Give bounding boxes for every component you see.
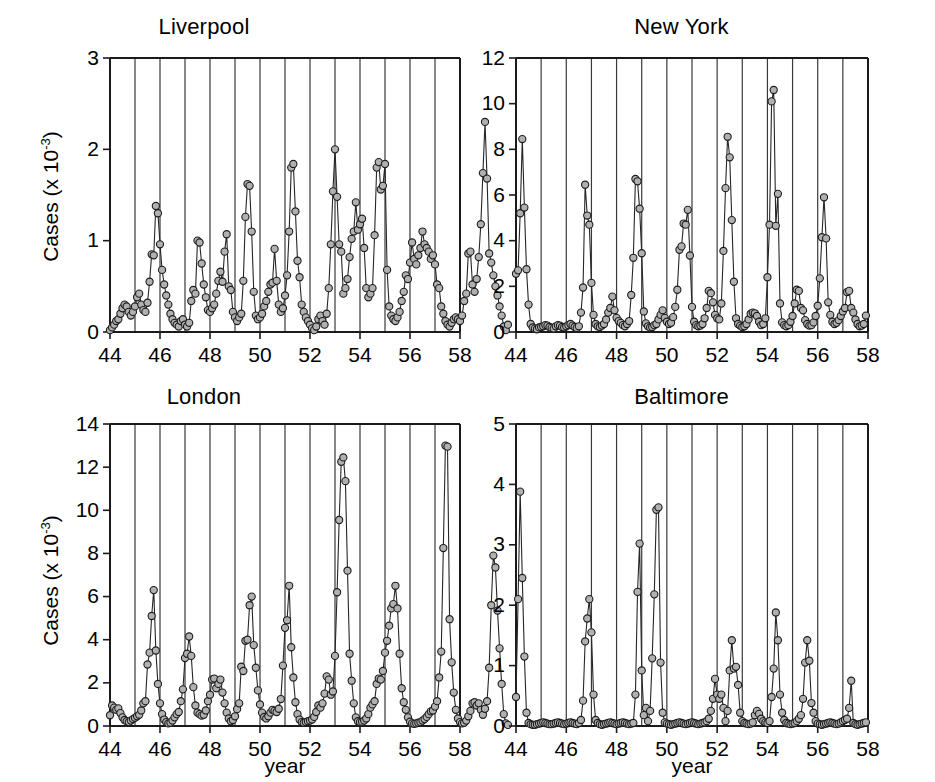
- data-point: [275, 705, 282, 712]
- data-point: [277, 695, 284, 702]
- data-point: [728, 217, 735, 224]
- data-point: [429, 252, 436, 259]
- data-point: [797, 712, 804, 719]
- y-tick-label: 2: [493, 274, 505, 297]
- y-tick-label: 6: [493, 183, 505, 206]
- data-point: [217, 676, 224, 683]
- data-point: [640, 308, 647, 315]
- plot-london: 024681012144446485052545658: [0, 372, 468, 782]
- data-point: [458, 312, 465, 319]
- data-point: [286, 582, 293, 589]
- data-point: [644, 718, 651, 725]
- data-point: [716, 316, 723, 323]
- data-point: [298, 301, 305, 308]
- data-point: [106, 712, 113, 719]
- data-point: [440, 544, 447, 551]
- data-point: [814, 302, 821, 309]
- data-point: [383, 637, 390, 644]
- data-point: [816, 275, 823, 282]
- data-point: [586, 596, 593, 603]
- data-point: [240, 667, 247, 674]
- data-point: [396, 650, 403, 657]
- data-point: [290, 160, 297, 167]
- data-point: [156, 241, 163, 248]
- data-point: [768, 693, 775, 700]
- data-point: [331, 146, 338, 153]
- plot-baltimore: 0123454446485052545658: [468, 372, 935, 782]
- data-point: [156, 700, 163, 707]
- data-point: [450, 689, 457, 696]
- data-point: [336, 516, 343, 523]
- data-point: [452, 706, 459, 713]
- data-point: [273, 277, 280, 284]
- data-point: [846, 287, 853, 294]
- data-point: [588, 279, 595, 286]
- data-point: [651, 591, 658, 598]
- data-point: [338, 248, 345, 255]
- data-point: [250, 288, 257, 295]
- x-tick-label: 56: [806, 343, 829, 366]
- data-point: [202, 707, 209, 714]
- data-point: [804, 637, 811, 644]
- data-point: [221, 248, 228, 255]
- data-point: [236, 700, 243, 707]
- data-point: [415, 252, 422, 259]
- data-point: [772, 222, 779, 229]
- data-point: [720, 247, 727, 254]
- data-point: [433, 698, 440, 705]
- data-point: [577, 716, 584, 723]
- data-point: [525, 301, 532, 308]
- data-point: [333, 193, 340, 200]
- data-point: [722, 185, 729, 192]
- data-point: [219, 278, 226, 285]
- data-point: [674, 286, 681, 293]
- data-point: [323, 310, 330, 317]
- data-point: [688, 303, 695, 310]
- x-tick-label: 54: [756, 343, 780, 366]
- data-point: [342, 285, 349, 292]
- data-point: [198, 260, 205, 267]
- x-tick-label: 44: [504, 737, 528, 760]
- data-point: [221, 700, 228, 707]
- y-tick-label: 8: [87, 541, 99, 564]
- data-point: [440, 310, 447, 317]
- x-tick-label: 52: [705, 343, 728, 366]
- data-point: [448, 659, 455, 666]
- data-point: [394, 605, 401, 612]
- data-point: [737, 709, 744, 716]
- data-point: [336, 241, 343, 248]
- series-line: [110, 122, 508, 330]
- data-point: [611, 307, 618, 314]
- data-point: [762, 315, 769, 322]
- data-point: [377, 676, 384, 683]
- data-point: [179, 686, 186, 693]
- data-point: [726, 154, 733, 161]
- data-point: [283, 617, 290, 624]
- data-point: [265, 288, 272, 295]
- data-point: [358, 215, 365, 222]
- data-point: [630, 254, 637, 261]
- data-point: [638, 667, 645, 674]
- data-point: [296, 274, 303, 281]
- data-point: [371, 698, 378, 705]
- x-tick-label: 44: [98, 737, 122, 760]
- y-tick-label: 1: [87, 228, 99, 251]
- data-point: [258, 310, 265, 317]
- data-point: [772, 609, 779, 616]
- x-tick-label: 56: [806, 737, 829, 760]
- data-point: [154, 680, 161, 687]
- data-point: [634, 178, 641, 185]
- data-point: [584, 212, 591, 219]
- data-point: [523, 266, 530, 273]
- data-point: [165, 301, 172, 308]
- data-point: [827, 311, 834, 318]
- x-tick-label: 46: [555, 343, 578, 366]
- y-tick-label: 0: [87, 320, 99, 343]
- y-tick-label: 0: [493, 320, 505, 343]
- data-point: [350, 700, 357, 707]
- data-point: [768, 98, 775, 105]
- data-point: [152, 647, 159, 654]
- data-point: [724, 133, 731, 140]
- data-point: [810, 709, 817, 716]
- data-point: [438, 303, 445, 310]
